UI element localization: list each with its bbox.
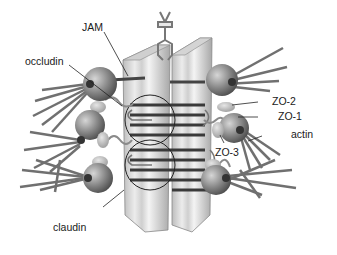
- diagram-artwork: [0, 0, 337, 255]
- left-membrane: [123, 45, 170, 232]
- label-occludin: occludin: [25, 56, 64, 67]
- zo3-oval: [212, 122, 224, 138]
- label-zo1: ZO-1: [278, 111, 302, 122]
- label-jam: JAM: [82, 22, 103, 33]
- actin-filaments-right-bottom: [228, 160, 296, 198]
- label-claudin: claudin: [53, 222, 86, 233]
- tight-junction-diagram: JAM occludin ZO-2 ZO-1 actin ZO-3 claudi…: [0, 0, 337, 255]
- zo2-oval: [217, 102, 235, 112]
- actin-filaments-left-bottom: [20, 160, 85, 192]
- label-actin: actin: [291, 129, 313, 140]
- label-zo2: ZO-2: [272, 96, 296, 107]
- label-zo3: ZO-3: [215, 147, 239, 158]
